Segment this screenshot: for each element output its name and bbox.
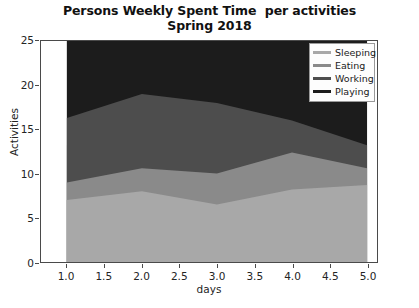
legend-item-working[interactable]: Working [313,72,371,85]
x-tick-label: 3.0 [197,270,237,282]
y-tick-mark [35,129,39,130]
y-tick-mark [35,40,39,41]
x-tick-label: 3.5 [235,270,275,282]
x-tick-mark [179,264,180,268]
x-tick-mark [142,264,143,268]
x-axis-ticks: 1.01.52.02.53.03.54.04.55.0 [40,264,378,280]
y-axis-label: Activities [8,82,20,182]
x-tick-mark [255,264,256,268]
legend-swatch-icon [313,77,331,80]
legend-item-eating[interactable]: Eating [313,59,371,72]
legend-item-sleeping[interactable]: Sleeping [313,46,371,59]
y-tick-label: 5 [4,212,34,224]
x-tick-label: 1.5 [84,270,124,282]
y-tick-label: 0 [4,257,34,269]
x-tick-label: 2.0 [122,270,162,282]
y-tick-mark [35,263,39,264]
x-tick-label: 4.5 [310,270,350,282]
x-tick-mark [66,264,67,268]
legend-label: Eating [335,61,365,71]
y-tick-mark [35,174,39,175]
x-tick-mark [293,264,294,268]
chart-legend[interactable]: SleepingEatingWorkingPlaying [309,43,375,102]
legend-label: Working [335,74,374,84]
x-tick-label: 1.0 [46,270,86,282]
y-tick-mark [35,218,39,219]
legend-label: Sleeping [335,48,376,58]
x-tick-mark [104,264,105,268]
x-axis-label: days [40,283,378,295]
x-tick-label: 5.0 [348,270,388,282]
y-tick-label: 25 [4,34,34,46]
legend-item-playing[interactable]: Playing [313,85,371,98]
chart-title-line-1: Persons Weekly Spent Time per activities [0,3,419,18]
chart-figure: Persons Weekly Spent Time per activities… [0,0,419,308]
y-tick-mark [35,85,39,86]
x-tick-label: 2.5 [159,270,199,282]
chart-title-line-2: Spring 2018 [0,18,419,33]
x-tick-label: 4.0 [273,270,313,282]
chart-title: Persons Weekly Spent Time per activities… [0,3,419,33]
x-tick-mark [330,264,331,268]
legend-label: Playing [335,87,370,97]
legend-swatch-icon [313,64,331,67]
x-tick-mark [217,264,218,268]
legend-swatch-icon [313,51,331,54]
x-tick-mark [368,264,369,268]
legend-swatch-icon [313,90,331,93]
